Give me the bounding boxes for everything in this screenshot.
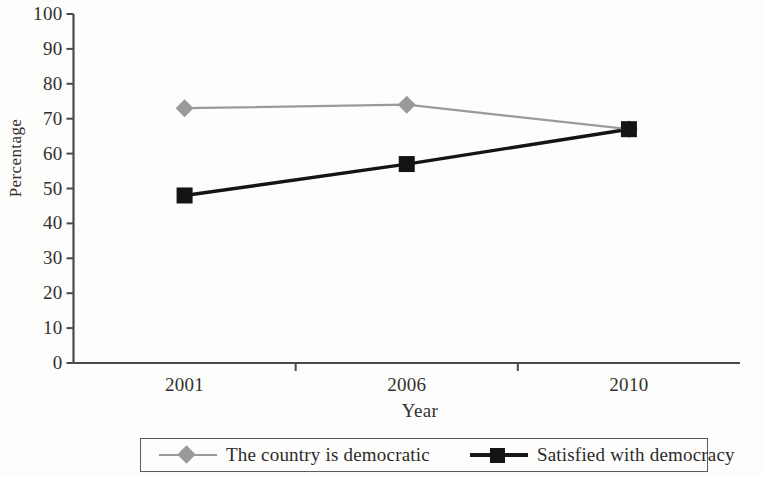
line-chart: 0102030405060708090100 200120062010 Perc… xyxy=(0,0,763,477)
diamond-marker-icon xyxy=(159,445,217,465)
y-tick-label: 80 xyxy=(15,74,63,93)
x-tick-label: 2001 xyxy=(125,375,245,394)
x-tick-label: 2010 xyxy=(569,375,689,394)
data-point-marker xyxy=(398,96,416,114)
legend-label-the-country-is-democratic: The country is democratic xyxy=(226,444,430,466)
y-tick-label: 20 xyxy=(15,283,63,302)
y-tick-label: 100 xyxy=(15,4,63,23)
y-tick-label: 10 xyxy=(15,318,63,337)
x-tick-label: 2006 xyxy=(347,375,467,394)
x-axis-ticks xyxy=(296,363,518,371)
series-markers-the-country-is-democratic xyxy=(176,96,638,138)
y-tick-label: 90 xyxy=(15,39,63,58)
data-point-marker xyxy=(176,99,194,117)
legend-label-satisfied-with-democracy: Satisfied with democracy xyxy=(537,444,735,466)
data-point-marker xyxy=(399,156,415,172)
data-point-marker xyxy=(621,121,637,137)
y-axis-title: Percentage xyxy=(6,98,26,218)
chart-legend: The country is democratic Satisfied with… xyxy=(140,438,708,472)
data-point-marker xyxy=(177,187,193,203)
legend-item-the-country-is-democratic: The country is democratic xyxy=(159,439,430,471)
series-markers-satisfied-with-democracy xyxy=(177,121,637,203)
legend-item-satisfied-with-democracy: Satisfied with democracy xyxy=(470,439,735,471)
x-axis-title: Year xyxy=(360,400,480,422)
y-tick-label: 0 xyxy=(15,353,63,372)
y-tick-label: 30 xyxy=(15,248,63,267)
square-marker-icon xyxy=(470,445,528,465)
